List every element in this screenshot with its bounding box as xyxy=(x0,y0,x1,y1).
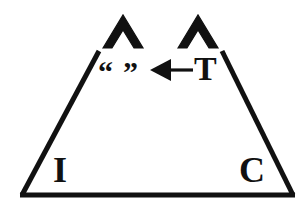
diagram-canvas: “ ” T I C xyxy=(0,0,305,208)
opening-quotation-mark: “ xyxy=(98,57,113,87)
left-caret-icon xyxy=(103,15,143,48)
label-c: C xyxy=(239,152,265,188)
label-i: I xyxy=(53,152,67,188)
closing-quotation-mark: ” xyxy=(123,57,138,87)
label-t: T xyxy=(194,52,217,86)
right-caret-icon xyxy=(178,15,218,48)
arrow-head-icon xyxy=(150,59,171,81)
